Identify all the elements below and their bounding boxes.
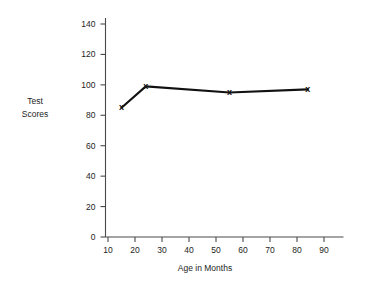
x-tick-label: 70	[265, 245, 275, 255]
x-tick-label: 40	[184, 245, 194, 255]
data-point-marker: x	[227, 87, 232, 97]
data-point-marker: x	[305, 84, 310, 94]
y-axis-title-line2: Scores	[22, 109, 48, 119]
x-tick-label: 90	[319, 245, 329, 255]
x-axis-tick-labels: 102030405060708090	[103, 245, 329, 255]
x-tick-label: 60	[238, 245, 248, 255]
y-tick-label: 40	[86, 171, 96, 181]
x-tick-label: 20	[130, 245, 140, 255]
y-tick-label: 60	[86, 141, 96, 151]
y-tick-label: 20	[86, 202, 96, 212]
x-tick-label: 10	[103, 245, 113, 255]
line-chart: 020406080100120140 102030405060708090 xx…	[0, 0, 369, 295]
chart-container: 020406080100120140 102030405060708090 xx…	[0, 0, 369, 295]
y-tick-label: 0	[91, 232, 96, 242]
x-axis-title: Age in Months	[178, 263, 232, 273]
data-point-marker: x	[143, 81, 148, 91]
data-point-marker: x	[119, 102, 124, 112]
y-tick-label: 120	[81, 49, 95, 59]
y-axis-title-line1: Test	[27, 96, 43, 106]
x-tick-label: 50	[211, 245, 221, 255]
y-tick-label: 100	[81, 80, 95, 90]
y-tick-label: 80	[86, 110, 96, 120]
x-tick-label: 30	[157, 245, 167, 255]
x-tick-label: 80	[292, 245, 302, 255]
y-tick-label: 140	[81, 19, 95, 29]
